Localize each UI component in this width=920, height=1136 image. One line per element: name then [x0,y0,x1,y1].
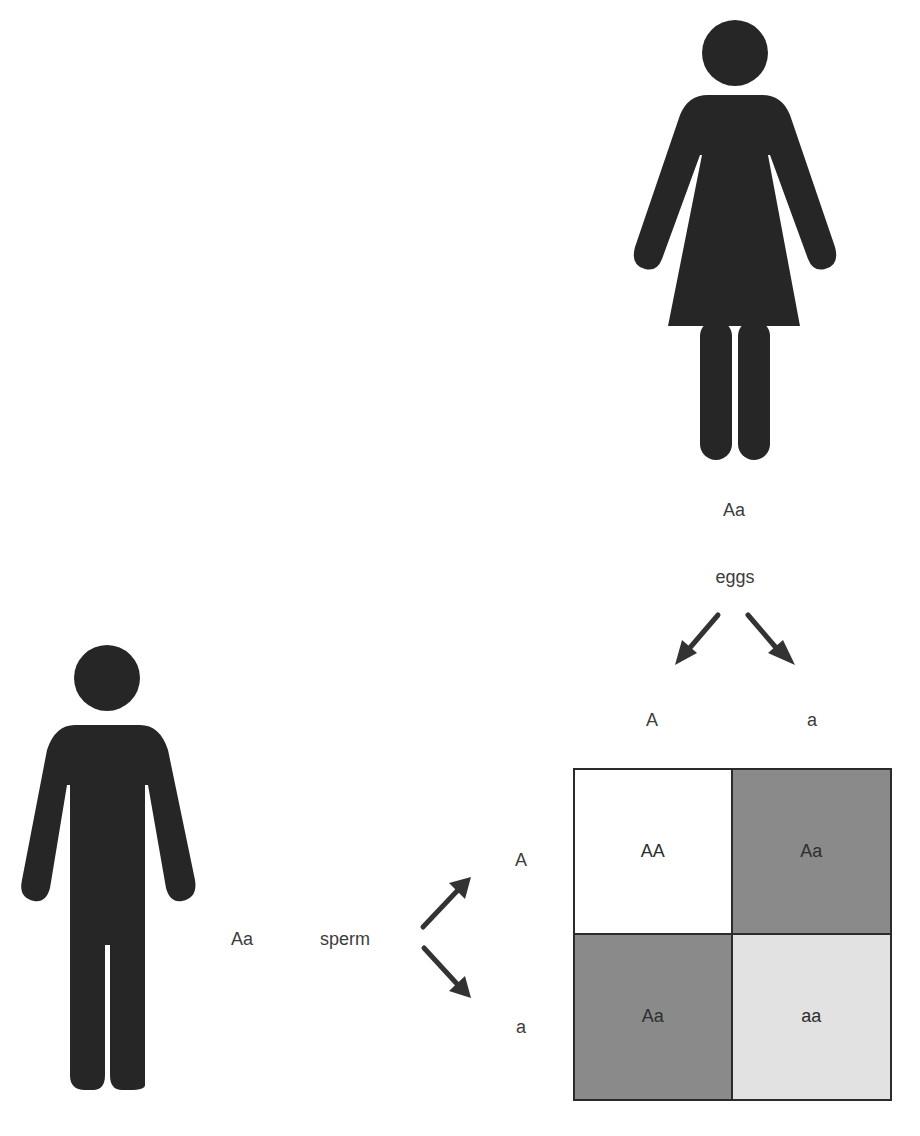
eggs-label: eggs [700,567,770,588]
cell-genotype: AA [641,841,665,862]
egg-arrows-icon [670,610,800,670]
cell-genotype: Aa [800,841,822,862]
sperm-label: sperm [310,929,380,950]
female-figure-icon [630,15,840,460]
egg-allele-A: A [640,710,664,731]
punnett-cell-AA: AA [575,770,733,935]
sperm-allele-a: a [509,1017,533,1038]
cell-genotype: aa [801,1006,821,1027]
male-genotype-label: Aa [220,929,264,950]
female-genotype-label: Aa [712,500,756,521]
punnett-square: AA Aa Aa aa [573,768,892,1101]
punnett-cell-aa: aa [733,935,891,1100]
punnett-cell-Aa-top: Aa [733,770,891,935]
egg-allele-a: a [800,710,824,731]
punnett-cell-Aa-bottom: Aa [575,935,733,1100]
sperm-arrows-icon [418,870,478,1005]
male-figure-icon [20,645,198,1090]
sperm-allele-A: A [509,850,533,871]
cell-genotype: Aa [642,1006,664,1027]
